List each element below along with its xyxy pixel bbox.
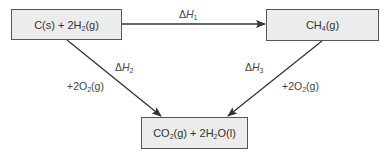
methane-label: CH4(g) <box>306 19 339 31</box>
dh2-label: ΔH2 <box>115 61 134 73</box>
arrow-dh2 <box>67 40 161 116</box>
combustion-products-label: CO2(g) + 2H2O(l) <box>153 127 236 139</box>
arrow-dh3 <box>228 41 322 116</box>
combustion-products-box: CO2(g) + 2H2O(l) <box>141 117 248 149</box>
methane-box: CH4(g) <box>266 9 379 41</box>
dh1-label: ΔH1 <box>179 8 198 20</box>
oxygen-right-label: +2O2(g) <box>282 80 319 92</box>
oxygen-left-label: +2O2(g) <box>67 80 104 92</box>
reactants-label: C(s) + 2H2(g) <box>34 19 99 31</box>
reactants-box: C(s) + 2H2(g) <box>11 9 122 40</box>
dh3-label: ΔH3 <box>245 61 264 73</box>
